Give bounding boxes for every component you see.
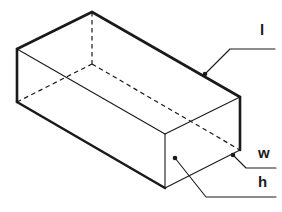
- cuboid-diagram: [0, 0, 282, 212]
- cuboid-faces: [17, 12, 240, 188]
- height-label: h: [258, 174, 267, 189]
- width-leader-dot: [231, 153, 236, 158]
- length-label: l: [260, 22, 264, 37]
- length-leader-dot: [203, 72, 208, 77]
- height-leader-dot: [173, 156, 178, 161]
- figure-root: l w h: [0, 0, 282, 212]
- width-label: w: [258, 145, 270, 160]
- length-leader-line: [205, 49, 275, 74]
